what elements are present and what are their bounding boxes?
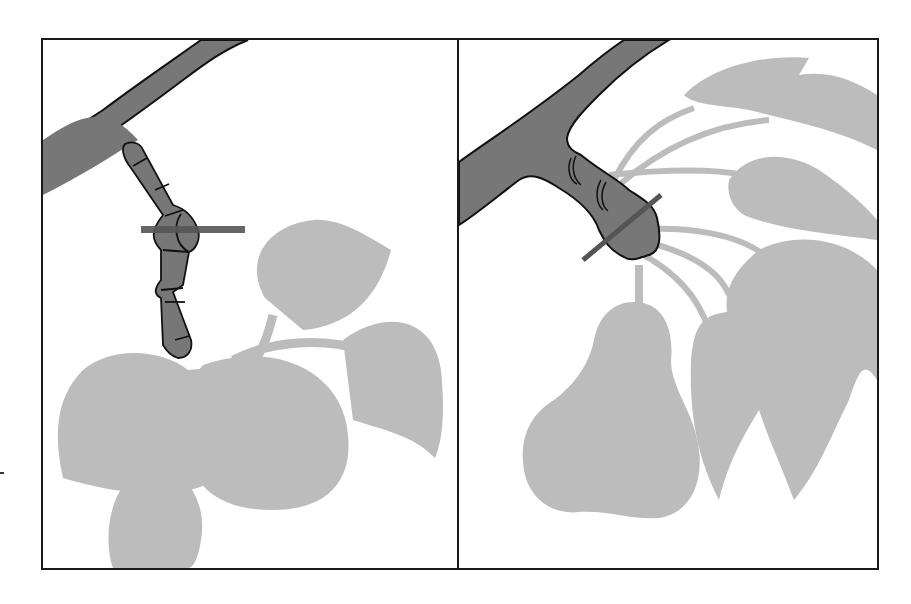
leaf-middle: [728, 157, 877, 240]
leaf-cluster: [58, 220, 443, 568]
margin-tick-mark: [0, 472, 4, 474]
leaf-top-right: [684, 57, 877, 150]
panel-left-spur-with-leaves: [41, 38, 459, 570]
leaf-right: [343, 322, 443, 458]
jointed-spur: [123, 142, 199, 358]
panel-right-spur-with-pear: [457, 38, 879, 570]
left-illustration: [43, 40, 457, 568]
leaf-center: [188, 356, 349, 510]
leaf-top: [257, 220, 391, 330]
foliage-and-fruit: [523, 57, 877, 518]
right-illustration: [459, 40, 877, 568]
cut-line-horizontal: [141, 226, 245, 233]
branch-with-swollen-spur: [459, 40, 669, 259]
pear-fruit: [523, 302, 700, 518]
